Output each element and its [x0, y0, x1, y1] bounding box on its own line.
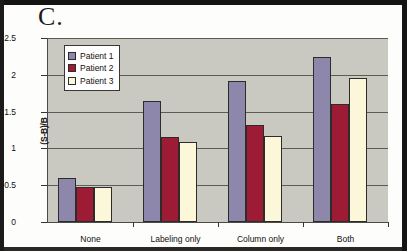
y-tick-label: 0: [0, 217, 16, 227]
bar[interactable]: [264, 136, 282, 222]
x-tick-mark: [388, 222, 389, 227]
y-axis-label: (S-B)/B: [39, 117, 49, 144]
bar[interactable]: [179, 142, 197, 222]
x-tick-label: Labeling only: [133, 234, 218, 244]
y-tick-label: 1.5: [0, 107, 16, 117]
y-tick-label: 1: [0, 143, 16, 153]
bar[interactable]: [94, 187, 112, 222]
y-tick-label: 2.5: [0, 33, 16, 43]
legend-label: Patient 3: [80, 76, 114, 86]
bar[interactable]: [228, 81, 246, 222]
legend-item[interactable]: Patient 1: [68, 50, 114, 62]
chart-legend: Patient 1Patient 2Patient 3: [64, 45, 120, 91]
legend-swatch-icon: [68, 52, 76, 60]
bar-group: [228, 38, 282, 222]
legend-item[interactable]: Patient 2: [68, 62, 114, 74]
bar[interactable]: [349, 78, 367, 222]
bar[interactable]: [143, 101, 161, 222]
x-tick-label: Column only: [218, 234, 303, 244]
x-tick-mark: [303, 222, 304, 227]
figure-panel: C. 00.511.522.5 (S-B)/B NoneLabeling onl…: [0, 0, 407, 251]
bar[interactable]: [58, 178, 76, 222]
frame-border-right: [402, 0, 407, 251]
bar[interactable]: [313, 57, 331, 222]
panel-title: C.: [38, 2, 64, 32]
bar[interactable]: [331, 104, 349, 222]
bar[interactable]: [246, 125, 264, 222]
x-tick-mark: [218, 222, 219, 227]
y-tick-label: 2: [0, 70, 16, 80]
x-tick-label: None: [48, 234, 133, 244]
bar[interactable]: [76, 187, 94, 222]
y-tick-label: 0.5: [0, 180, 16, 190]
x-tick-mark: [133, 222, 134, 227]
bar-group: [313, 38, 367, 222]
legend-swatch-icon: [68, 77, 76, 85]
legend-label: Patient 1: [80, 51, 114, 61]
legend-item[interactable]: Patient 3: [68, 75, 114, 87]
legend-label: Patient 2: [80, 63, 114, 73]
plot-area: (S-B)/B NoneLabeling onlyColumn onlyBoth…: [47, 38, 388, 223]
x-tick-label: Both: [303, 234, 388, 244]
frame-border-bottom: [0, 247, 407, 251]
legend-swatch-icon: [68, 64, 76, 72]
bar[interactable]: [161, 137, 179, 222]
bar-group: [143, 38, 197, 222]
